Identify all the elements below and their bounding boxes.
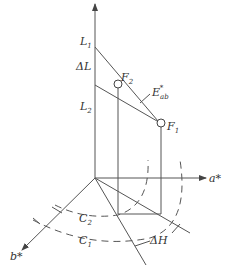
label-f2: F2 [120,71,134,86]
hue-line-f2 [95,178,146,265]
color-difference-diagram: L1 ΔL L2 F2 F1 Eab* a* b* C2 C1 ΔH [0,0,231,279]
eab-leader [140,94,150,103]
label-b-axis: b* [10,250,23,263]
label-l2: L2 [79,100,92,115]
arc-c1 [33,160,182,241]
arc-c2 [55,160,148,216]
label-c2: C2 [79,212,92,227]
delta-h-bracket [135,241,150,246]
line-l1-f1 [95,47,158,121]
line-l2-f1 [95,85,157,121]
label-eab: Eab* [151,84,169,101]
point-f1 [157,119,165,127]
label-f1: F1 [166,120,179,135]
hue-line-f1 [95,178,190,233]
label-delta-h: ΔH [149,234,168,247]
label-delta-l: ΔL [75,60,91,73]
label-a-axis: a* [209,172,222,185]
label-l1: L1 [79,35,92,50]
label-c1: C1 [79,234,92,249]
